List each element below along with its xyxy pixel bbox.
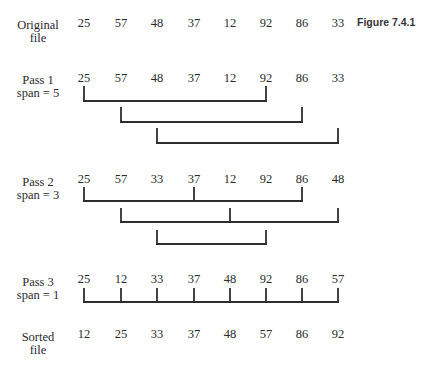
row-label-line2: file [0, 32, 78, 45]
value-cell-sorted-8: 92 [323, 328, 353, 341]
value-cell-pass1-5: 12 [215, 72, 245, 85]
value-cell-pass1-4: 37 [179, 72, 209, 85]
value-cell-pass2-4: 37 [179, 173, 209, 186]
value-cell-pass2-7: 86 [287, 173, 317, 186]
value-cell-sorted-2: 25 [106, 328, 136, 341]
value-cell-pass1-8: 33 [323, 72, 353, 85]
value-cell-original-8: 33 [323, 17, 353, 30]
row-label-line2: file [0, 344, 78, 357]
value-cell-pass3-7: 86 [287, 273, 317, 286]
row-label-line2: span = 1 [0, 289, 78, 302]
value-cell-original-6: 92 [251, 17, 281, 30]
value-cell-pass2-2: 57 [106, 173, 136, 186]
value-cell-pass3-1: 25 [69, 273, 99, 286]
value-cell-sorted-3: 33 [142, 328, 172, 341]
value-cell-pass1-7: 86 [287, 72, 317, 85]
row-label-pass2: Pass 2 span = 3 [0, 176, 78, 202]
value-cell-sorted-6: 57 [251, 328, 281, 341]
value-cell-pass1-2: 57 [106, 72, 136, 85]
value-cell-pass2-8: 48 [323, 173, 353, 186]
value-cell-pass3-2: 12 [106, 273, 136, 286]
row-label-pass3: Pass 3 span = 1 [0, 276, 78, 302]
value-cell-pass1-3: 48 [142, 72, 172, 85]
value-cell-pass2-5: 12 [215, 173, 245, 186]
value-cell-original-2: 57 [106, 17, 136, 30]
value-cell-original-3: 48 [142, 17, 172, 30]
row-label-original: Original file [0, 19, 78, 45]
figure-caption: Figure 7.4.1 [357, 16, 415, 28]
value-cell-sorted-7: 86 [287, 328, 317, 341]
value-cell-original-7: 86 [287, 17, 317, 30]
value-cell-pass2-3: 33 [142, 173, 172, 186]
value-cell-original-4: 37 [179, 17, 209, 30]
value-cell-sorted-4: 37 [179, 328, 209, 341]
value-cell-original-1: 25 [69, 17, 99, 30]
value-cell-original-5: 12 [215, 17, 245, 30]
value-cell-sorted-5: 48 [215, 328, 245, 341]
value-cell-pass3-6: 92 [251, 273, 281, 286]
value-cell-pass2-1: 25 [69, 173, 99, 186]
value-cell-sorted-1: 12 [69, 328, 99, 341]
shell-sort-diagram: Figure 7.4.1 Original file Pass 1 span =… [0, 0, 431, 367]
row-label-line2: span = 5 [0, 87, 78, 100]
row-label-pass1: Pass 1 span = 5 [0, 74, 78, 100]
value-cell-pass3-5: 48 [215, 273, 245, 286]
row-label-sorted: Sorted file [0, 331, 78, 357]
row-label-line2: span = 3 [0, 189, 78, 202]
value-cell-pass3-3: 33 [142, 273, 172, 286]
value-cell-pass3-8: 57 [323, 273, 353, 286]
value-cell-pass3-4: 37 [179, 273, 209, 286]
value-cell-pass1-6: 92 [251, 72, 281, 85]
value-cell-pass2-6: 92 [251, 173, 281, 186]
value-cell-pass1-1: 25 [69, 72, 99, 85]
